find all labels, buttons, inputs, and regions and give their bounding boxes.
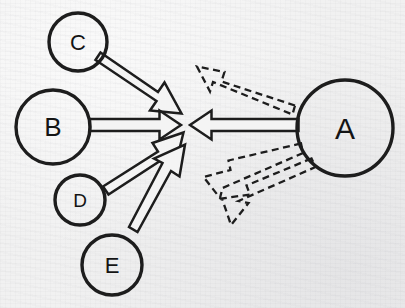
node-d-label: D (73, 190, 87, 211)
diagram-svg: A B C D E (0, 0, 405, 308)
arrow-solid-shape (96, 53, 182, 114)
edge-b-to-center[interactable] (90, 111, 181, 140)
node-c[interactable]: C (49, 13, 107, 71)
arrow-solid-shape (90, 111, 181, 140)
node-b-label: B (44, 112, 61, 142)
arrow-dashed-shape (197, 67, 295, 115)
edge-a-out-upper[interactable] (197, 67, 295, 115)
edge-a-to-center[interactable] (190, 111, 299, 140)
arrow-solid-shape (190, 111, 299, 140)
diagram-canvas: A B C D E (0, 0, 405, 308)
node-e[interactable]: E (82, 235, 142, 295)
node-b[interactable]: B (16, 90, 90, 164)
node-c-label: C (70, 30, 86, 55)
arrow-solid-shape (129, 145, 185, 233)
edge-a-out-mid[interactable] (204, 144, 304, 199)
node-e-label: E (105, 253, 120, 278)
edge-c-to-center[interactable] (96, 53, 182, 114)
arrow-dashed-shape (204, 144, 304, 199)
node-d[interactable]: D (55, 175, 105, 225)
node-a-label: A (335, 112, 355, 145)
node-a[interactable]: A (297, 80, 393, 176)
edge-e-to-center[interactable] (129, 145, 185, 233)
